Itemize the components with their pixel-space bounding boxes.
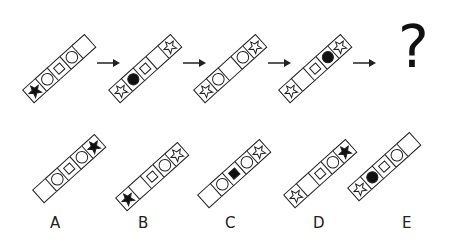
option-b-figure	[115, 138, 194, 212]
option-a-figure	[32, 130, 111, 204]
option-d-figure	[283, 135, 362, 209]
right-arrow-icon	[268, 58, 292, 68]
option-a-label[interactable]: A	[50, 214, 60, 232]
option-b-label[interactable]: B	[138, 214, 148, 232]
right-arrow-icon	[183, 58, 207, 68]
option-c-figure	[197, 135, 276, 209]
sequence-figure-1	[22, 30, 101, 104]
right-arrow-icon	[353, 58, 377, 68]
option-c-label[interactable]: C	[225, 214, 235, 232]
right-arrow-icon	[97, 58, 121, 68]
question-mark: ?	[398, 18, 429, 76]
option-e-label[interactable]: E	[402, 214, 411, 232]
option-e-figure	[347, 128, 426, 202]
option-d-label[interactable]: D	[313, 214, 325, 232]
